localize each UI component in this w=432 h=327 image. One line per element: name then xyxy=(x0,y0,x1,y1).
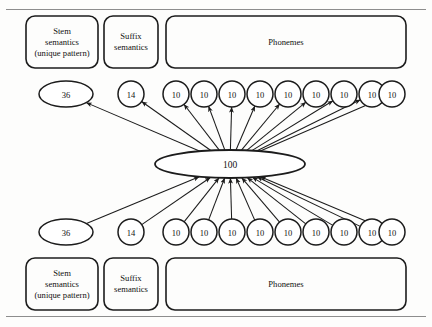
phoneme-unit-input-4-shape xyxy=(247,219,273,245)
suffix-semantics-output-label: Suffix semantics xyxy=(114,31,148,53)
phoneme-unit-input-5-shape xyxy=(275,219,301,245)
hidden-units-value: 100 xyxy=(223,160,237,170)
input-layer-units xyxy=(39,219,405,245)
suffix-semantics-input-label: Suffix semantics xyxy=(114,273,148,295)
connection-hidden-to-phoneme-unit-output-7 xyxy=(252,101,333,151)
connection-hidden-to-phoneme-unit-output-4 xyxy=(236,106,255,150)
network-architecture-figure: Stem semantics (unique pattern)Suffix se… xyxy=(0,0,432,327)
phonemes-input-label: Phonemes xyxy=(268,279,303,290)
connection-hidden-to-phoneme-unit-output-2 xyxy=(209,106,225,150)
phoneme-unit-input-7-shape xyxy=(331,219,357,245)
phonemes-output-label: Phonemes xyxy=(268,37,303,48)
connection-hidden-to-phoneme-unit-output-1 xyxy=(184,104,219,150)
phoneme-unit-input-1-shape xyxy=(163,219,189,245)
suffix-units-input-shape xyxy=(118,219,144,245)
connection-phoneme-unit-input-1-to-hidden xyxy=(184,178,219,222)
stem-units-output-shape xyxy=(39,81,93,107)
stem-semantics-input-label: Stem semantics (unique pattern) xyxy=(34,268,89,300)
connection-hidden-to-stem-units-output xyxy=(86,103,200,152)
stem-semantics-output-label: Stem semantics (unique pattern) xyxy=(34,26,89,58)
phoneme-unit-input-3-shape xyxy=(219,219,245,245)
phoneme-unit-output-2-shape xyxy=(191,81,217,107)
phoneme-unit-input-2-shape xyxy=(191,219,217,245)
stem-units-input-shape xyxy=(39,219,93,245)
connection-hidden-to-phoneme-unit-output-5 xyxy=(241,104,279,150)
connection-phoneme-unit-input-2-to-hidden xyxy=(209,178,225,220)
connection-hidden-to-phoneme-unit-output-6 xyxy=(247,102,306,150)
suffix-units-output-shape xyxy=(118,81,144,107)
connection-phoneme-unit-input-6-to-hidden xyxy=(247,178,306,224)
output-layer-units xyxy=(39,81,405,107)
connection-phoneme-unit-input-4-to-hidden xyxy=(236,178,255,220)
phoneme-unit-output-4-shape xyxy=(247,81,273,107)
phoneme-unit-output-9-shape xyxy=(379,81,405,107)
connection-phoneme-unit-input-7-to-hidden xyxy=(252,177,332,225)
phoneme-unit-input-9-shape xyxy=(379,219,405,245)
connection-phoneme-unit-input-3-to-hidden xyxy=(230,178,231,219)
phoneme-unit-input-6-shape xyxy=(303,219,329,245)
phoneme-unit-output-6-shape xyxy=(303,81,329,107)
phoneme-unit-output-1-shape xyxy=(163,81,189,107)
phoneme-unit-output-3-shape xyxy=(219,81,245,107)
phoneme-unit-output-7-shape xyxy=(331,81,357,107)
connection-stem-units-input-to-hidden xyxy=(86,177,199,224)
phoneme-unit-output-5-shape xyxy=(275,81,301,107)
connection-hidden-to-phoneme-unit-output-3 xyxy=(230,107,231,150)
